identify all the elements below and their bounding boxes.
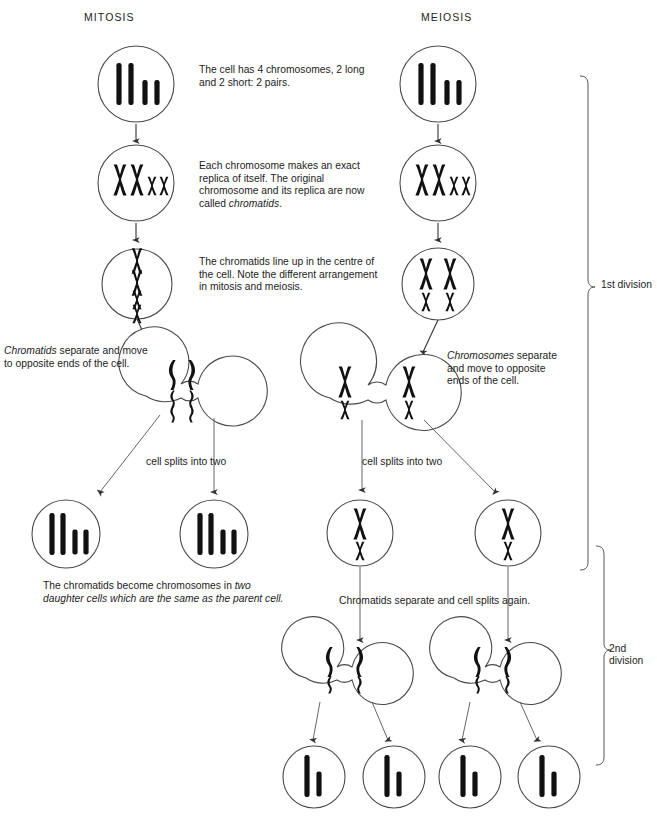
note-daughter-cells: The chromatids become chromosomes in two…: [43, 580, 293, 605]
meiosis-stage-anaphase-2-left: [282, 617, 414, 705]
note-chromosomes-separate-term: Chromosomes: [447, 350, 514, 361]
label-first-division: 1st division: [601, 279, 652, 291]
arrow-mitosis-4-left: [100, 415, 160, 492]
arrow-gamete-3: [462, 702, 470, 740]
label-second-division: 2nd division: [609, 643, 643, 668]
meiosis-gamete-4: [518, 746, 580, 808]
meiosis-stage-interphase: [400, 46, 476, 122]
mitosis-column: [32, 46, 267, 568]
meiosis-division1-cell-right: [475, 500, 541, 566]
arrow-meiosis-3: [423, 320, 438, 352]
meiosis-division1-cell-left: [327, 500, 393, 566]
note-replication-term: chromatids: [229, 198, 279, 209]
mitosis-stage-interphase: [98, 46, 174, 122]
note-chromatids-separate-term: Chromatids: [4, 345, 57, 356]
mitosis-daughter-cell-left: [32, 500, 100, 568]
meiosis-stage-metaphase-1: [402, 248, 474, 320]
note-daughter-cells-part1: The chromatids become chromosomes in: [43, 580, 235, 591]
note-chromosomes-separate: Chromosomes separate and move to opposit…: [447, 350, 567, 388]
meiosis-gamete-2: [363, 746, 425, 808]
mitosis-stage-replication: [98, 145, 174, 221]
mitosis-stage-metaphase: [102, 248, 172, 323]
meiosis-stage-replication: [400, 145, 476, 221]
note-split-again: Chromatids separate and cell splits agai…: [339, 595, 599, 608]
meiosis-stage-anaphase-1: [301, 323, 462, 431]
arrow-gamete-4: [520, 702, 537, 740]
note-cell-splits-meiosis: cell splits into two: [362, 456, 482, 469]
note-chromatids-separate: Chromatids separate and move to opposite…: [4, 345, 154, 370]
column-title-mitosis: MITOSIS: [84, 11, 135, 23]
mitosis-daughter-cell-right: [180, 500, 248, 568]
diagram-canvas: MITOSIS MEIOSIS The cell has 4 chromosom…: [0, 0, 657, 834]
bracket-first-division: [580, 76, 595, 570]
diagram-graphics: [0, 0, 657, 834]
note-replication: Each chromosome makes an exact replica o…: [199, 160, 371, 210]
note-replication-part2: .: [279, 198, 282, 209]
arrow-gamete-2: [372, 702, 388, 740]
arrow-gamete-1: [313, 702, 320, 740]
meiosis-stage-anaphase-2-right: [430, 617, 562, 705]
note-cell-splits-mitosis: cell splits into two: [146, 456, 266, 469]
note-line-up: The chromatids line up in the centre of …: [199, 256, 385, 294]
note-four-chromosomes: The cell has 4 chromosomes, 2 long and 2…: [199, 64, 369, 89]
mitosis-stage-anaphase: [119, 327, 267, 426]
meiosis-gamete-3: [439, 746, 501, 808]
column-title-meiosis: MEIOSIS: [421, 11, 472, 23]
meiosis-gamete-1: [283, 746, 345, 808]
